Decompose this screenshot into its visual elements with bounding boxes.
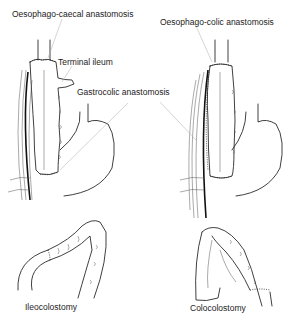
label-oesophago-colic-anastomosis: Oesophago-colic anastomosis bbox=[160, 18, 274, 27]
panel-bottom-right bbox=[196, 228, 272, 307]
label-ileocolostomy: Ileocolostomy bbox=[25, 303, 77, 312]
panel-bottom-left bbox=[18, 221, 106, 298]
diagram-artwork bbox=[0, 0, 304, 323]
label-terminal-ileum: Terminal ileum bbox=[58, 58, 113, 67]
panel-top-right bbox=[180, 40, 282, 218]
label-colocolostomy: Colocolostomy bbox=[190, 304, 246, 313]
label-gastrocolic-anastomosis: Gastrocolic anastomosis bbox=[77, 88, 170, 97]
label-oesophago-caecal-anastomosis: Oesophago-caecal anastomosis bbox=[12, 10, 133, 19]
surgical-diagram: Oesophago-caecal anastomosis Terminal il… bbox=[0, 0, 304, 323]
